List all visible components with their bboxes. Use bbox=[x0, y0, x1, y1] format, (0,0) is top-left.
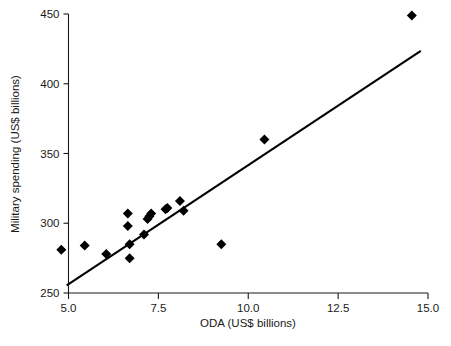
plot-canvas: 250300350400450 5.07.510.012.515.0 ODA (… bbox=[0, 0, 451, 346]
y-axis: 250300350400450 bbox=[40, 8, 68, 299]
data-point-marker bbox=[125, 253, 135, 263]
x-tick-group: 5.07.510.012.515.0 bbox=[61, 293, 440, 314]
y-tick-label: 400 bbox=[40, 78, 59, 90]
data-points-group bbox=[56, 10, 417, 263]
data-point-marker bbox=[123, 208, 133, 218]
x-axis: 5.07.510.012.515.0 bbox=[61, 293, 440, 314]
y-tick-label: 250 bbox=[40, 287, 59, 299]
x-tick-label: 5.0 bbox=[61, 302, 77, 314]
data-point-marker bbox=[179, 206, 189, 216]
data-point-marker bbox=[259, 135, 269, 145]
y-tick-group: 250300350400450 bbox=[40, 8, 68, 299]
y-tick-label: 300 bbox=[40, 217, 59, 229]
x-tick-label: 10.0 bbox=[237, 302, 259, 314]
y-axis-title: Military spending (US$ billions) bbox=[9, 75, 21, 233]
x-axis-title: ODA (US$ billions) bbox=[200, 317, 296, 329]
scatter-chart-figure: 250300350400450 5.07.510.012.515.0 ODA (… bbox=[0, 0, 451, 346]
trend-line-group bbox=[67, 51, 421, 285]
data-point-marker bbox=[80, 241, 90, 251]
trend-line bbox=[67, 51, 421, 285]
y-tick-label: 350 bbox=[40, 148, 59, 160]
data-point-marker bbox=[216, 239, 226, 249]
data-point-marker bbox=[56, 245, 66, 255]
x-tick-label: 12.5 bbox=[327, 302, 349, 314]
y-tick-label: 450 bbox=[40, 8, 59, 20]
data-point-marker bbox=[407, 10, 417, 20]
data-point-marker bbox=[175, 196, 185, 206]
data-point-marker bbox=[123, 221, 133, 231]
x-tick-label: 7.5 bbox=[150, 302, 166, 314]
x-tick-label: 15.0 bbox=[417, 302, 439, 314]
